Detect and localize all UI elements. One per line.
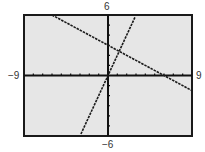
ymin-label: −6 xyxy=(102,140,113,150)
graph-screen xyxy=(0,0,205,152)
xmax-label: 9 xyxy=(196,71,202,81)
ymax-label: 6 xyxy=(104,2,110,12)
xmin-label: −9 xyxy=(8,71,19,81)
